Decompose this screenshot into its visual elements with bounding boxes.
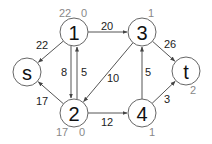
node-label: 3 (136, 22, 147, 44)
edge-4-to-3: 5 (142, 47, 151, 99)
node-annotation: 0 (81, 7, 87, 19)
node-3: 31 (128, 7, 156, 46)
node-1: 1220 (59, 7, 88, 46)
node-label: 1 (68, 22, 79, 44)
edge-capacity-label: 5 (145, 66, 151, 78)
node-annotation: 1 (148, 7, 154, 19)
node-annotation: 0 (79, 126, 85, 138)
node-annotation: 2 (190, 84, 196, 96)
edge-capacity-label: 12 (101, 116, 113, 128)
edge-capacity-label: 8 (61, 66, 67, 78)
edge-capacity-label: 17 (36, 95, 48, 107)
node-label: t (183, 61, 189, 83)
node-4: 41 (128, 99, 156, 138)
edge-capacity-label: 20 (101, 20, 113, 32)
node-2: 2170 (56, 99, 88, 138)
node-s: s (13, 58, 41, 86)
edge-1-to-2: 8 (61, 46, 71, 98)
node-annotation: 1 (149, 126, 155, 138)
edge-1-to-3: 20 (88, 20, 127, 32)
node-annotation: 17 (56, 126, 68, 138)
edge-2-to-s: 17 (36, 82, 64, 107)
node-annotation: 22 (59, 7, 71, 19)
node-t: t2 (172, 57, 200, 96)
node-label: 2 (68, 103, 79, 125)
edge-1-to-s: 22 (36, 39, 63, 62)
edge-capacity-label: 3 (164, 93, 170, 105)
edge-capacity-label: 22 (36, 39, 48, 51)
edge-2-to-1: 5 (77, 47, 87, 99)
edge-2-to-4: 12 (88, 113, 127, 128)
edge-3-to-2: 10 (84, 43, 133, 102)
edge-capacity-label: 5 (81, 66, 87, 78)
edge-4-to-t: 3 (152, 81, 175, 105)
flow-network-diagram: 2022851710526123 122031st2217041 (0, 0, 212, 144)
node-label: 4 (136, 103, 147, 125)
edge-capacity-label: 26 (164, 38, 176, 50)
edge-capacity-label: 10 (107, 72, 119, 84)
edge-3-to-t: 26 (152, 38, 176, 61)
node-label: s (22, 62, 32, 84)
